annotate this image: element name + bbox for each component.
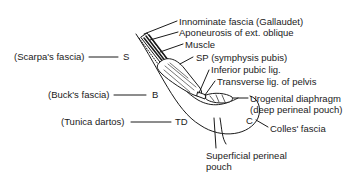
label-colles-fascia: Colles' fascia bbox=[270, 123, 326, 134]
label-colles-abbr: C bbox=[246, 115, 253, 126]
leader-colles bbox=[256, 120, 268, 127]
leader-innominate bbox=[144, 21, 177, 34]
label-symphysis-pubis: SP (symphysis pubis) bbox=[196, 52, 287, 63]
inferior-pubic-lig bbox=[197, 92, 206, 99]
label-superficial-pouch: pouch bbox=[206, 161, 232, 172]
label-bucks-fascia: (Buck's fascia) bbox=[48, 89, 109, 100]
label-scarpa-abbr: S bbox=[123, 51, 129, 62]
label-muscle: Muscle bbox=[185, 39, 215, 50]
label-urogenital-diaphragm: Urogenital diaphragm bbox=[250, 93, 341, 104]
label-deep-perineal-pouch: (deep perineal pouch) bbox=[250, 104, 342, 115]
symphysis-pubis bbox=[157, 59, 201, 96]
label-inferior-pubic-lig: Inferior pubic lig. bbox=[211, 64, 281, 75]
label-tunica-abbr: TD bbox=[175, 116, 188, 127]
label-aponeurosis: Aponeurosis of ext. oblique bbox=[179, 27, 294, 38]
urogenital-diaphragm bbox=[206, 93, 233, 103]
leader-muscle bbox=[160, 44, 183, 52]
label-bucks-abbr: B bbox=[152, 89, 158, 100]
pouch-line bbox=[220, 118, 226, 144]
label-tunica-dartos: (Tunica dartos) bbox=[61, 116, 125, 127]
label-superficial-perineal: Superficial perineal bbox=[206, 150, 287, 161]
leader-aponeurosis bbox=[150, 32, 178, 40]
leader-sp bbox=[180, 57, 193, 64]
leader-superficial bbox=[214, 118, 216, 148]
label-innominate-fascia: Innominate fascia (Gallaudet) bbox=[179, 16, 303, 27]
leader-inferior bbox=[199, 70, 209, 93]
label-scarpa-fascia: (Scarpa's fascia) bbox=[14, 51, 84, 62]
label-transverse-lig: Transverse lig. of pelvis bbox=[217, 76, 316, 87]
